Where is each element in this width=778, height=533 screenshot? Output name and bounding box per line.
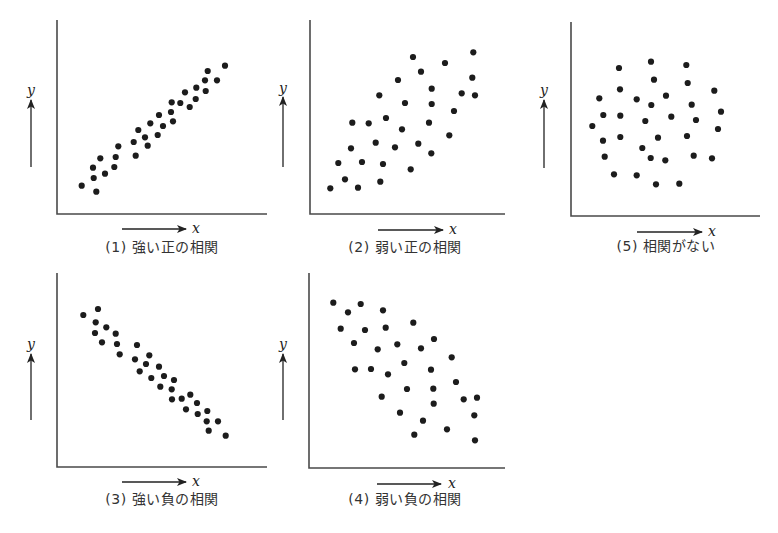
data-point	[157, 384, 163, 390]
data-point	[429, 101, 435, 107]
data-point	[648, 102, 654, 108]
data-point	[639, 145, 645, 151]
data-point	[345, 309, 351, 315]
data-point	[418, 69, 424, 75]
data-point	[366, 120, 372, 126]
data-point	[428, 367, 434, 373]
plot4-caption: (4) 弱い負の相関	[348, 491, 461, 507]
plot5-panel	[544, 22, 760, 232]
data-point	[408, 166, 414, 172]
data-point	[634, 172, 640, 178]
data-point	[352, 366, 358, 372]
data-point	[453, 379, 459, 385]
data-point	[156, 112, 162, 118]
data-point	[358, 301, 364, 307]
data-point	[330, 300, 336, 306]
data-point	[474, 395, 480, 401]
data-point	[156, 364, 162, 370]
data-point	[113, 154, 119, 160]
data-point	[380, 307, 386, 313]
data-point	[655, 135, 661, 141]
data-point	[177, 100, 183, 106]
data-point	[430, 386, 436, 392]
data-point	[131, 139, 137, 145]
data-point	[449, 354, 455, 360]
data-point	[161, 373, 167, 379]
axes-frame	[57, 20, 267, 214]
data-point	[171, 377, 177, 383]
data-point	[418, 345, 424, 351]
x-axis-label: x	[708, 224, 716, 238]
data-point	[179, 396, 185, 402]
data-point	[693, 117, 699, 123]
data-point	[689, 102, 695, 108]
data-point	[203, 88, 209, 94]
data-points	[327, 49, 478, 191]
data-point	[663, 93, 669, 99]
data-point	[385, 371, 391, 377]
data-point	[182, 89, 188, 95]
data-point	[202, 77, 208, 83]
data-point	[193, 96, 199, 102]
data-point	[103, 324, 109, 330]
plot2-panel	[283, 20, 505, 230]
data-point	[691, 153, 697, 159]
data-point	[137, 368, 143, 374]
data-point	[472, 92, 478, 98]
data-point	[410, 54, 416, 60]
data-point	[214, 77, 220, 83]
data-point	[102, 171, 108, 177]
y-axis-label: y	[540, 83, 548, 97]
data-point	[715, 126, 721, 132]
data-points	[589, 59, 724, 188]
data-point	[379, 394, 385, 400]
data-point	[205, 68, 211, 74]
data-point	[93, 189, 99, 195]
data-point	[399, 126, 405, 132]
data-point	[600, 112, 606, 118]
data-point	[651, 77, 657, 83]
y-axis-label: y	[279, 337, 287, 351]
data-point	[169, 386, 175, 392]
data-point	[90, 165, 96, 171]
data-point	[470, 49, 476, 55]
data-point	[142, 134, 148, 140]
data-point	[92, 330, 98, 336]
data-point	[711, 88, 717, 94]
data-point	[222, 63, 228, 69]
data-point	[653, 181, 659, 187]
data-point	[611, 171, 617, 177]
data-point	[146, 352, 152, 358]
data-point	[634, 96, 640, 102]
data-point	[359, 159, 365, 165]
data-point	[349, 120, 355, 126]
data-point	[327, 185, 333, 191]
data-point	[168, 109, 174, 115]
data-point	[117, 351, 123, 357]
data-point	[342, 176, 348, 182]
y-axis-label: y	[27, 337, 35, 351]
data-point	[383, 325, 389, 331]
plot4-panel	[283, 273, 505, 484]
data-point	[429, 86, 435, 92]
plot1-panel	[31, 20, 267, 229]
data-point	[133, 153, 139, 159]
x-axis-label: x	[448, 476, 456, 490]
data-point	[111, 164, 117, 170]
data-point	[685, 80, 691, 86]
data-point	[348, 145, 354, 151]
data-point	[600, 138, 606, 144]
data-point	[401, 360, 407, 366]
data-point	[169, 396, 175, 402]
data-point	[215, 418, 221, 424]
data-point	[471, 412, 477, 418]
x-axis-label: x	[192, 474, 200, 488]
y-axis-label: y	[27, 83, 35, 97]
data-point	[602, 154, 608, 160]
data-point	[160, 123, 166, 129]
data-point	[351, 340, 357, 346]
data-point	[431, 336, 437, 342]
data-point	[392, 144, 398, 150]
data-point	[420, 418, 426, 424]
data-point	[442, 60, 448, 66]
